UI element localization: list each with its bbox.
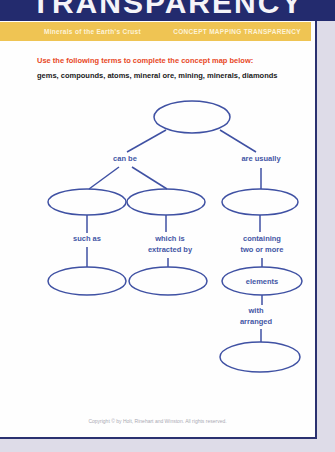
oval-row2-left-empty: [48, 189, 126, 215]
page-header-band: TRANSPARENCY: [0, 0, 335, 21]
section-banner: Minerals of the Earth's Crust CONCEPT MA…: [0, 22, 311, 41]
link-label-are-usually: are usually: [241, 154, 280, 165]
oval-bottom-empty: [220, 342, 300, 372]
link-label-such-as: such as: [73, 234, 101, 245]
instructions-term-list: gems, compounds, atoms, mineral ore, min…: [37, 71, 297, 82]
oval-row3-middle-empty: [129, 267, 207, 295]
oval-row2-right-empty: [222, 189, 298, 215]
connector-canbe-to-middle-oval: [132, 167, 167, 189]
connector-root-to-areusually: [220, 130, 256, 152]
copyright-notice: Copyright © by Holt, Rinehart and Winsto…: [0, 418, 315, 424]
worksheet-page: Minerals of the Earth's Crust CONCEPT MA…: [0, 0, 317, 439]
page-title: TRANSPARENCY: [0, 0, 335, 20]
link-label-can-be: can be: [113, 154, 137, 165]
link-label-containing-two-or-more: containing two or more: [241, 234, 284, 256]
oval-row3-left-empty: [48, 267, 126, 295]
connector-canbe-to-left-oval: [89, 167, 119, 189]
instructions-heading: Use the following terms to complete the …: [37, 56, 297, 67]
link-label-with-arranged: with arranged: [240, 306, 272, 328]
node-label-elements: elements: [246, 277, 279, 288]
oval-root-empty: [154, 101, 230, 133]
banner-transparency-label: CONCEPT MAPPING TRANSPARENCY: [173, 28, 301, 35]
link-label-which-is-extracted-by: which is extracted by: [148, 234, 192, 256]
instructions-block: Use the following terms to complete the …: [37, 56, 297, 81]
connector-root-to-canbe: [127, 130, 166, 152]
chapter-title: Minerals of the Earth's Crust: [44, 28, 141, 35]
oval-row2-middle-empty: [127, 189, 205, 215]
